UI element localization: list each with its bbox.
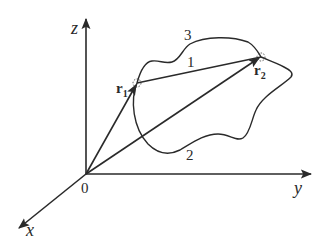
r1-vector (86, 85, 136, 174)
path-integral-diagram: z y x 0 r1 r2 1 2 3 (0, 0, 328, 243)
origin-label: 0 (81, 180, 89, 196)
z-axis-label: z (70, 18, 78, 38)
y-axis-label: y (292, 178, 302, 198)
path-2-label: 2 (186, 147, 194, 163)
x-axis-label: x (25, 220, 34, 240)
r2-label: r2 (254, 62, 266, 81)
r1-label: r1 (116, 80, 128, 99)
path-2-curve (133, 57, 292, 153)
path-3-label: 3 (184, 27, 192, 43)
path-1-label: 1 (187, 54, 195, 70)
